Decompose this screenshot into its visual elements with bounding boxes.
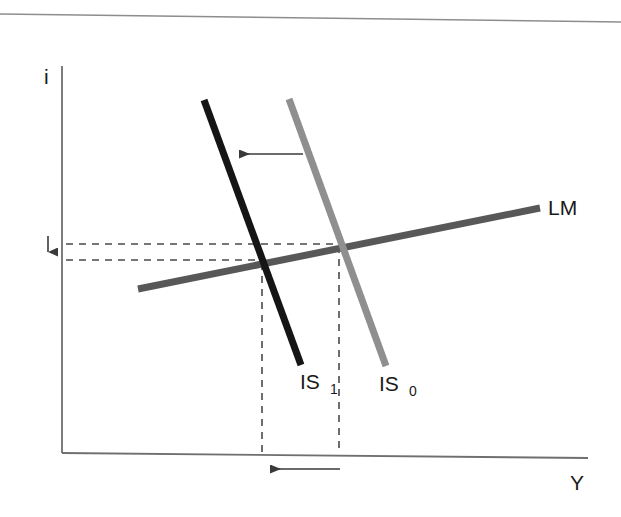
- x-axis-label: Y: [570, 471, 584, 494]
- page-top-rule: [0, 14, 621, 22]
- annotation-arrows-group: [48, 154, 340, 469]
- is0-curve-label-subscript: 0: [409, 383, 417, 399]
- diagram-canvas: i Y LM IS 0 IS 1: [0, 0, 621, 517]
- is1-curve-label: IS: [300, 370, 320, 393]
- is-lm-figure: i Y LM IS 0 IS 1: [0, 0, 621, 517]
- lm-curve-label: LM: [548, 196, 577, 219]
- is0-curve-label: IS: [379, 372, 399, 395]
- x-axis: [62, 453, 588, 458]
- axes-group: [62, 66, 588, 458]
- y-axis-label: i: [44, 65, 49, 88]
- is1-curve-label-subscript: 1: [330, 381, 338, 397]
- is1-curve: [204, 100, 301, 365]
- is0-curve: [289, 99, 386, 366]
